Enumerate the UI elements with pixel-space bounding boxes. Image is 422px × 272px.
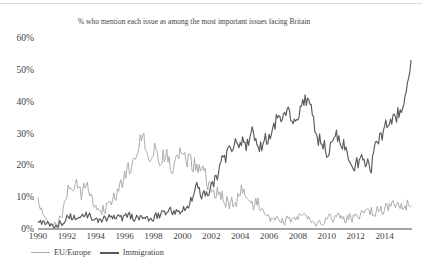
y-axis-tick-label: 10% [6,191,34,202]
legend-item-immigration[interactable]: Immigration [100,248,164,257]
y-axis-tick-label: 30% [6,128,34,139]
chart-figure: % who mention each issue as among the mo… [0,0,422,272]
x-axis-tick-label: 2000 [167,231,197,241]
x-axis-tick-label: 1996 [110,231,140,241]
y-axis-tick-label: 60% [6,32,34,43]
legend-item-eu-europe[interactable]: EU/Europe [31,248,91,257]
y-axis-tick-label: 50% [6,64,34,75]
x-axis-tick-label: 2006 [254,231,284,241]
legend-swatch-icon [100,252,119,254]
series-layer [38,60,411,227]
x-axis-tick-label: 2014 [370,231,400,241]
x-axis-tick-label: 1998 [139,231,169,241]
legend-swatch-icon [31,252,50,253]
series-line-eu-europe [38,133,411,227]
x-axis-tick-label: 1992 [52,231,82,241]
x-axis-tick-label: 2002 [196,231,226,241]
x-axis-tick-label: 1994 [81,231,111,241]
x-axis-tick-label: 1990 [23,231,53,241]
legend-label: EU/Europe [54,248,91,257]
legend-label: Immigration [123,248,164,257]
x-axis-tick-label: 2010 [312,231,342,241]
x-axis-tick-label: 2008 [283,231,313,241]
y-axis-tick-label: 20% [6,159,34,170]
y-axis-tick-label: 40% [6,96,34,107]
x-axis-tick-label: 2012 [341,231,371,241]
x-axis-tick-label: 2004 [225,231,255,241]
chart-legend: EU/EuropeImmigration [31,248,164,257]
